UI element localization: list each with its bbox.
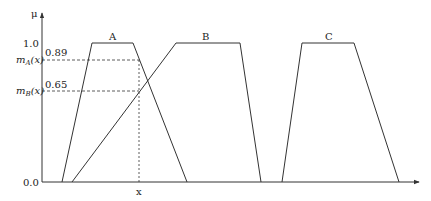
tick-1-0: 1.0: [23, 38, 39, 49]
ma-label: mA(x): [16, 54, 44, 67]
set-a-label: A: [108, 31, 117, 42]
tick-0-0: 0.0: [23, 177, 39, 188]
x-marker-label: x: [136, 186, 142, 197]
ma-value: 0.89: [45, 47, 67, 58]
set-b-label: B: [202, 31, 209, 42]
mb-value: 0.65: [45, 79, 67, 90]
set-c-shape: [282, 43, 399, 182]
fuzzy-diagram: μ 1.0 0.0 0.89 0.65 mA(x) mB(x) x A B C: [0, 0, 431, 201]
mb-label: mB(x): [16, 85, 44, 98]
set-b-shape: [72, 43, 261, 182]
set-c-label: C: [325, 31, 333, 42]
y-axis-label: μ: [31, 8, 38, 19]
